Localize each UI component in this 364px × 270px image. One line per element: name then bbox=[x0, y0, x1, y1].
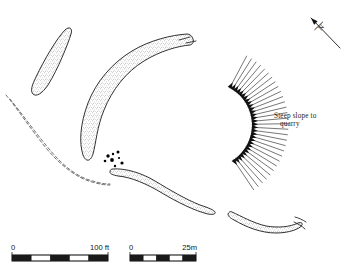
site-plan-figure: N Steep slope to quarry 0100 ft 025m bbox=[0, 0, 364, 270]
north-west-oval-bank bbox=[32, 28, 72, 95]
scalebar-segment bbox=[183, 255, 196, 261]
central-sinuous-bank bbox=[110, 169, 215, 215]
north-arrow: N bbox=[311, 18, 340, 48]
feature-dot bbox=[120, 161, 123, 164]
feature-dots-layer bbox=[104, 151, 124, 168]
south-east-bank bbox=[228, 212, 302, 233]
scalebar-segment bbox=[12, 255, 31, 261]
main-curving-rampart bbox=[81, 34, 194, 160]
feature-dot bbox=[118, 157, 120, 159]
scale-imperial-zero-label: 0 bbox=[11, 243, 15, 252]
steep-slope-label-line2: quarry bbox=[280, 120, 300, 128]
scalebar-segment bbox=[89, 255, 108, 261]
scale-bar-imperial: 0100 ft bbox=[11, 243, 110, 261]
feature-dot bbox=[106, 154, 109, 157]
north-letter: N bbox=[317, 23, 327, 33]
scalebar-segment bbox=[50, 255, 69, 261]
scalebar-segment bbox=[31, 255, 50, 261]
scale-metric-end-label: 25m bbox=[182, 243, 197, 252]
earthwork-banks-layer bbox=[32, 28, 303, 233]
scale-imperial-end-label: 100 ft bbox=[90, 243, 110, 252]
feature-dot bbox=[104, 160, 107, 163]
steep-slope-label-line1: Steep slope to bbox=[274, 112, 317, 120]
scalebar-segment bbox=[156, 255, 169, 261]
scalebar-segment bbox=[170, 255, 183, 261]
south-bank-continuation bbox=[295, 217, 306, 222]
feature-dot bbox=[112, 153, 114, 155]
scalebar-segment bbox=[70, 255, 89, 261]
scale-bar-metric: 025m bbox=[129, 243, 197, 261]
feature-dot bbox=[110, 158, 114, 162]
feature-dot bbox=[114, 165, 116, 167]
dash-fragment-layer bbox=[179, 37, 306, 229]
scale-metric-zero-label: 0 bbox=[129, 243, 133, 252]
scalebar-segment bbox=[130, 255, 143, 261]
scalebar-segment bbox=[143, 255, 156, 261]
steep-slope-hachures bbox=[228, 56, 288, 190]
site-plan-canvas: N Steep slope to quarry 0100 ft 025m bbox=[0, 0, 364, 270]
feature-dot bbox=[117, 151, 120, 154]
